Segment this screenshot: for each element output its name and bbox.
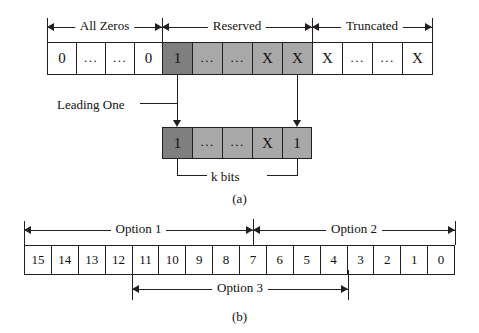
bit-cell: X bbox=[313, 43, 343, 74]
bit-row-part-a: 0 ... ... 0 1 ... ... X X X ... ... X bbox=[47, 42, 433, 75]
k-cell: ... bbox=[193, 128, 223, 158]
k-bracket-line-left bbox=[177, 175, 207, 176]
arrow-right-icon bbox=[155, 23, 162, 31]
bit-cell: ... bbox=[193, 43, 223, 74]
arrow-right-icon bbox=[341, 285, 348, 293]
arrow-right-icon bbox=[425, 23, 432, 31]
bit-cell: 0 bbox=[135, 43, 163, 74]
bit-index-cell: 15 bbox=[25, 246, 52, 274]
bit-cell: 0 bbox=[48, 43, 77, 74]
span-label-option-1: Option 1 bbox=[111, 221, 167, 237]
tick-option-2-right bbox=[455, 221, 456, 245]
k-bracket-line-right bbox=[267, 175, 298, 176]
bit-index-cell: 11 bbox=[133, 246, 160, 274]
span-label-reserved: Reserved bbox=[208, 18, 266, 34]
bit-index-cell: 4 bbox=[321, 246, 348, 274]
bit-index-row: 15 14 13 12 11 10 9 8 7 6 5 4 3 2 1 0 bbox=[24, 245, 455, 275]
tick-all-zeros-left bbox=[47, 18, 48, 42]
arrow-left-icon bbox=[253, 226, 260, 234]
arrow-left-icon bbox=[24, 226, 31, 234]
k-cell: X bbox=[253, 128, 283, 158]
k-bits-box: 1 ... ... X 1 bbox=[162, 127, 312, 159]
bit-cell: ... bbox=[223, 43, 253, 74]
caption-part-b: (b) bbox=[0, 310, 479, 323]
span-option-2: Option 2 bbox=[253, 223, 455, 239]
span-truncated: Truncated bbox=[312, 20, 432, 36]
span-reserved: Reserved bbox=[162, 20, 312, 36]
k-cell: 1 bbox=[283, 128, 311, 158]
leading-one-leader-line bbox=[140, 103, 177, 104]
arrow-down-icon bbox=[293, 120, 301, 127]
caption-part-a: (a) bbox=[0, 192, 479, 205]
arrow-left-icon bbox=[47, 23, 54, 31]
connector-leading-one bbox=[177, 75, 178, 124]
bit-index-cell: 14 bbox=[52, 246, 79, 274]
bit-index-cell: 1 bbox=[401, 246, 428, 274]
bit-index-cell: 9 bbox=[186, 246, 213, 274]
bit-index-cell: 5 bbox=[294, 246, 321, 274]
connector-last-reserved bbox=[297, 75, 298, 124]
arrow-left-icon bbox=[312, 23, 319, 31]
span-all-zeros: All Zeros bbox=[47, 20, 162, 36]
bit-cell: X bbox=[253, 43, 283, 74]
bit-cell: ... bbox=[106, 43, 135, 74]
k-bits-label: k bits bbox=[211, 170, 240, 183]
span-option-3: Option 3 bbox=[132, 282, 348, 298]
k-bracket-right-tick bbox=[297, 159, 298, 175]
bit-cell: X bbox=[283, 43, 313, 74]
k-bracket-left-tick bbox=[177, 159, 178, 175]
bit-index-cell: 10 bbox=[159, 246, 186, 274]
tick-option-3-right bbox=[348, 270, 349, 300]
arrow-left-icon bbox=[132, 285, 139, 293]
bit-index-cell: 3 bbox=[348, 246, 375, 274]
bit-index-cell: 12 bbox=[106, 246, 133, 274]
bit-cell: X bbox=[403, 43, 432, 74]
tick-truncated-right bbox=[432, 18, 433, 42]
arrow-left-icon bbox=[162, 23, 169, 31]
bit-index-cell: 2 bbox=[374, 246, 401, 274]
span-label-option-3: Option 3 bbox=[212, 280, 268, 296]
leading-one-label: Leading One bbox=[57, 98, 125, 111]
bit-index-cell: 8 bbox=[213, 246, 240, 274]
figure-root: All Zeros Reserved Truncated 0 ... ... 0… bbox=[0, 0, 479, 333]
bit-index-cell: 7 bbox=[240, 246, 267, 274]
bit-cell: ... bbox=[373, 43, 403, 74]
arrow-right-icon bbox=[246, 226, 253, 234]
span-label-truncated: Truncated bbox=[341, 18, 403, 34]
span-label-all-zeros: All Zeros bbox=[75, 18, 134, 34]
arrow-right-icon bbox=[305, 23, 312, 31]
k-cell: ... bbox=[223, 128, 253, 158]
span-option-1: Option 1 bbox=[24, 223, 253, 239]
span-label-option-2: Option 2 bbox=[326, 221, 382, 237]
bit-index-cell: 6 bbox=[267, 246, 294, 274]
bit-index-cell: 0 bbox=[428, 246, 454, 274]
bit-cell-leading-one: 1 bbox=[163, 43, 193, 74]
arrow-down-icon bbox=[173, 120, 181, 127]
k-cell-leading-one: 1 bbox=[163, 128, 193, 158]
bit-index-cell: 13 bbox=[79, 246, 106, 274]
arrow-right-icon bbox=[448, 226, 455, 234]
tick-option-1-left bbox=[24, 221, 25, 245]
bit-cell: ... bbox=[77, 43, 106, 74]
bit-cell: ... bbox=[343, 43, 373, 74]
